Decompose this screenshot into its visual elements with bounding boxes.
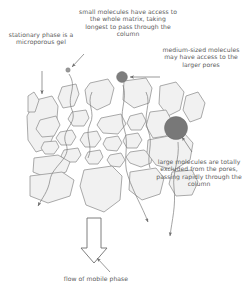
gel-blob	[127, 113, 146, 130]
label-small-molecules: small molecules have access to the whole…	[78, 8, 178, 38]
gel-blob	[41, 141, 59, 154]
gel-blob	[85, 79, 114, 110]
label-medium-molecules: medium-sized molecules may have access t…	[160, 46, 242, 68]
size-exclusion-chromatography-diagram: stationary phase is a microporous gel sm…	[0, 0, 245, 298]
label-large-molecules: large molecules are totally excluded fro…	[155, 158, 243, 188]
gel-blob	[58, 84, 79, 108]
gel-blob	[85, 150, 103, 164]
gel-blob	[97, 114, 126, 134]
gel-blob	[80, 131, 101, 147]
label-stationary-phase: stationary phase is a microporous gel	[8, 31, 74, 46]
medium-molecule	[117, 72, 128, 83]
gel-blob	[30, 172, 74, 203]
label-flow-of-mobile-phase: flow of mobile phase	[40, 275, 152, 282]
gel-blob	[80, 166, 122, 212]
leader-small-molecules	[72, 54, 84, 67]
small-molecule	[66, 68, 70, 72]
leader-flow	[97, 258, 110, 272]
gel-blob	[183, 92, 205, 122]
mobile-phase-arrow	[81, 218, 107, 263]
gel-blob	[103, 136, 122, 151]
large-molecule	[165, 117, 188, 140]
gel-blob	[107, 153, 125, 167]
